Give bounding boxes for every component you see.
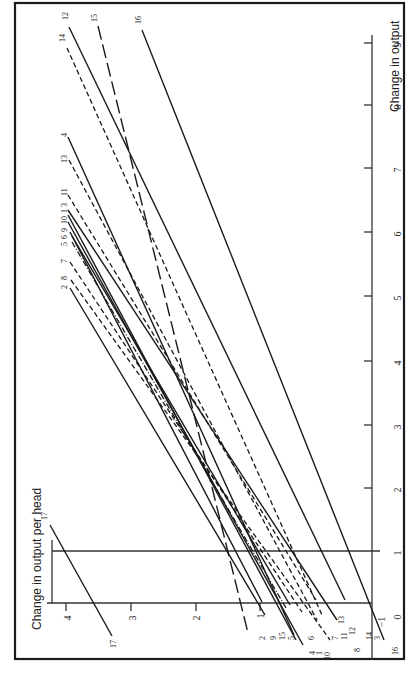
svg-text:5: 5 (392, 296, 403, 301)
svg-text:4: 4 (392, 361, 403, 366)
svg-text:2: 2 (392, 488, 403, 493)
svg-text:7: 7 (392, 168, 403, 173)
svg-text:2: 2 (191, 616, 202, 621)
svg-text:12: 12 (61, 12, 70, 20)
chart: 9 8 7 6 5 4 3 2 1 0 Change in output 4 3… (0, 0, 417, 674)
svg-text:7: 7 (60, 259, 69, 263)
svg-text:16: 16 (134, 16, 143, 24)
line-14 (67, 48, 322, 615)
svg-text:2: 2 (60, 285, 69, 289)
svg-text:17: 17 (40, 512, 49, 520)
svg-text:4: 4 (60, 133, 69, 137)
svg-text:14: 14 (58, 34, 67, 42)
line-10 (68, 222, 303, 645)
line-6 (72, 236, 290, 605)
series-lines (50, 26, 384, 645)
svg-text:2: 2 (258, 636, 267, 640)
svg-text:3: 3 (373, 636, 382, 640)
svg-text:4: 4 (62, 616, 73, 621)
chart-frame (15, 3, 404, 659)
svg-text:15: 15 (278, 632, 287, 640)
bottom-line-labels: 17 2 9 15 5 6 4 1 10 7 11 13 8 12 14 3 1… (109, 616, 400, 660)
line-16 (142, 30, 384, 640)
svg-text:8: 8 (60, 276, 69, 280)
svg-text:6: 6 (60, 235, 69, 239)
line-11 (68, 195, 316, 600)
svg-text:1: 1 (392, 551, 403, 556)
svg-text:10: 10 (60, 216, 69, 224)
svg-text:6: 6 (392, 232, 403, 237)
line-3 (68, 210, 337, 620)
svg-text:3: 3 (392, 425, 403, 430)
svg-text:9: 9 (60, 228, 69, 232)
svg-text:12: 12 (348, 627, 357, 635)
x-tick-labels: 9 8 7 6 5 4 3 2 1 0 (392, 43, 403, 620)
top-line-labels: 12 14 15 16 4 13 11 3 1 10 9 6 5 7 8 2 1… (40, 12, 143, 520)
svg-text:11: 11 (60, 188, 69, 196)
svg-text:10: 10 (323, 652, 332, 660)
svg-text:17: 17 (109, 640, 118, 648)
svg-text:9: 9 (269, 636, 278, 640)
svg-text:6: 6 (307, 636, 316, 640)
svg-text:13: 13 (337, 616, 346, 624)
x-axis-title: Change in output (388, 20, 402, 112)
line-17 (50, 525, 112, 636)
svg-text:8: 8 (353, 648, 362, 652)
svg-text:7: 7 (331, 636, 340, 640)
svg-text:16: 16 (391, 647, 400, 655)
svg-text:5: 5 (287, 636, 296, 640)
svg-text:1: 1 (60, 209, 69, 213)
svg-text:5: 5 (60, 242, 69, 246)
svg-text:15: 15 (90, 14, 99, 22)
svg-text:13: 13 (60, 155, 69, 163)
svg-text:0: 0 (392, 615, 403, 620)
svg-text:3: 3 (127, 616, 138, 621)
y-axis-title: Change in output per head (30, 488, 44, 630)
line-12 (69, 27, 345, 600)
line-2 (70, 288, 265, 615)
svg-text:3: 3 (60, 203, 69, 207)
line-4 (68, 137, 294, 635)
x-axis-ticks (364, 43, 372, 488)
